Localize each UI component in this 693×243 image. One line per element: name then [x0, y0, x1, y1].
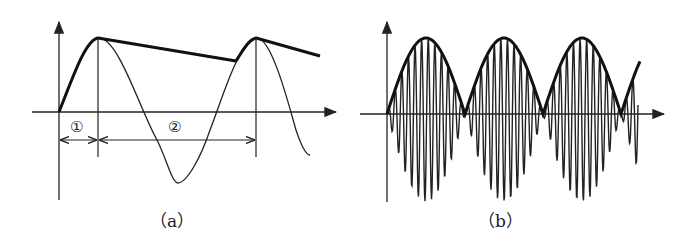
b-carrier-wave — [387, 38, 638, 201]
caption-b: （b） — [478, 207, 523, 232]
a-sine-wave — [59, 38, 310, 183]
interval-label-2: ② — [168, 118, 181, 136]
caption-a: （a） — [150, 207, 194, 232]
diagram-canvas — [0, 0, 693, 243]
figure-b — [360, 22, 664, 202]
figure-a — [32, 22, 336, 200]
interval-label-1: ① — [70, 118, 83, 136]
